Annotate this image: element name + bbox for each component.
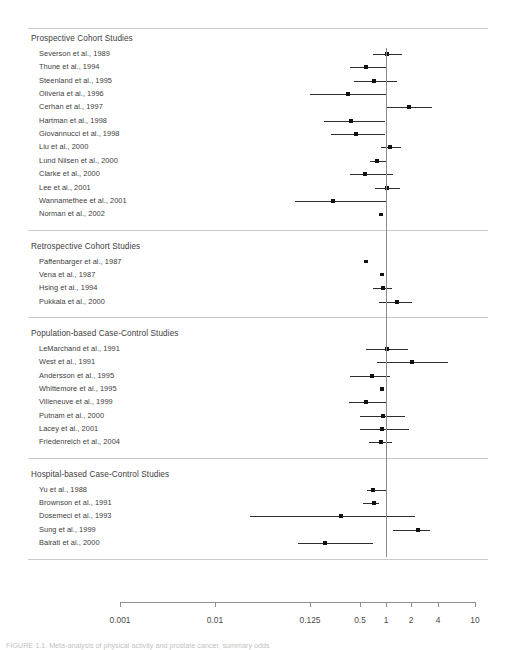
study-label: Lee et al., 2001 (39, 183, 91, 192)
point-estimate (364, 260, 367, 263)
point-estimate (323, 541, 327, 545)
study-label: Bairati et al., 2000 (39, 538, 100, 547)
point-estimate (346, 92, 350, 96)
x-axis-tick-label: 10 (470, 615, 479, 625)
study-label: Whittemore et al., 1995 (39, 384, 117, 393)
x-axis-tick-label: 0.01 (207, 615, 223, 625)
confidence-interval (350, 67, 386, 68)
study-label: Sung et al., 1999 (39, 525, 96, 534)
x-axis-tick (411, 602, 412, 607)
forest-plot: Prospective Cohort StudiesSeverson et al… (0, 0, 510, 650)
confidence-interval (250, 516, 415, 517)
section-divider (28, 28, 488, 29)
x-axis-tick-label: 0.125 (300, 615, 321, 625)
x-axis-tick-label: 4 (436, 615, 441, 625)
point-estimate (380, 427, 384, 431)
x-axis-tick (438, 602, 439, 607)
section-divider (28, 230, 488, 231)
point-estimate (380, 387, 383, 390)
study-label: Vena et al., 1987 (39, 270, 95, 279)
x-axis-line (120, 602, 475, 603)
confidence-interval (360, 429, 409, 430)
x-axis-tick (360, 602, 361, 607)
point-estimate (364, 65, 368, 69)
point-estimate (364, 400, 368, 404)
figure-caption: FIGURE 1.1. Meta-analysis of physical ac… (6, 641, 504, 650)
point-estimate (372, 501, 376, 505)
study-label: Paffenbarger et al., 1987 (39, 257, 121, 266)
point-estimate (372, 79, 376, 83)
confidence-interval (363, 503, 379, 504)
study-label: Cerhan et al., 1997 (39, 102, 103, 111)
point-estimate (363, 172, 367, 176)
study-label: West et al., 1991 (39, 357, 95, 366)
group-header-3: Population-based Case-Control Studies (31, 329, 179, 338)
study-label: Andersson et al., 1995 (39, 371, 114, 380)
study-label: Putnam et al., 2000 (39, 411, 104, 420)
study-label: Pukkala et al., 2000 (39, 297, 105, 306)
study-label: LeMarchand et al., 1991 (39, 344, 120, 353)
study-label: Friedenreich et al., 2004 (39, 437, 120, 446)
section-divider (28, 559, 488, 560)
point-estimate (354, 132, 358, 136)
point-estimate (407, 105, 411, 109)
point-estimate (371, 488, 375, 492)
x-axis-tick-label: 0.001 (110, 615, 131, 625)
study-label: Thune et al., 1994 (39, 62, 99, 71)
study-label: Dosemeci et al., 1993 (39, 511, 112, 520)
study-label: Villeneuve et al., 1999 (39, 397, 113, 406)
confidence-interval (393, 530, 430, 531)
point-estimate (380, 273, 383, 276)
point-estimate (349, 119, 353, 123)
x-axis-tick-label: 1 (384, 615, 389, 625)
point-estimate (416, 528, 420, 532)
study-label: Wannamethee et al., 2001 (39, 196, 127, 205)
study-label: Lund Nilsen et al., 2000 (39, 156, 118, 165)
study-label: Clarke et al., 2000 (39, 169, 100, 178)
group-header-4: Hospital-based Case-Control Studies (31, 470, 169, 479)
study-label: Steenland et al., 1995 (39, 76, 112, 85)
confidence-interval (298, 543, 373, 544)
confidence-interval (367, 490, 387, 491)
point-estimate (339, 514, 343, 518)
point-estimate (379, 440, 383, 444)
study-label: Oliveria et al., 1996 (39, 89, 104, 98)
section-divider (28, 317, 488, 318)
x-axis-tick (215, 602, 216, 607)
point-estimate (395, 300, 399, 304)
study-label: Giovannucci et al., 1998 (39, 129, 120, 138)
study-label: Severson et al., 1989 (39, 49, 110, 58)
study-label: Yu et al., 1988 (39, 485, 87, 494)
point-estimate (388, 145, 392, 149)
x-axis-tick (386, 602, 387, 607)
x-axis-tick (310, 602, 311, 607)
study-label: Lacey et al., 2001 (39, 424, 98, 433)
point-estimate (379, 213, 382, 216)
point-estimate (410, 360, 414, 364)
reference-line (386, 48, 387, 557)
x-axis-tick (475, 602, 476, 607)
confidence-interval (331, 134, 385, 135)
x-axis-tick-label: 2 (409, 615, 414, 625)
study-label: Hsing et al., 1994 (39, 283, 97, 292)
point-estimate (331, 199, 335, 203)
x-axis-tick (120, 602, 121, 607)
group-header-1: Prospective Cohort Studies (31, 34, 133, 43)
confidence-interval (324, 121, 385, 122)
study-label: Liu et al., 2000 (39, 142, 88, 151)
study-label: Norman et al., 2002 (39, 209, 105, 218)
section-divider (28, 458, 488, 459)
group-header-2: Retrospective Cohort Studies (31, 242, 140, 251)
study-label: Brownson et al., 1991 (39, 498, 112, 507)
point-estimate (381, 286, 385, 290)
x-axis-tick-label: 0.5 (354, 615, 366, 625)
point-estimate (375, 159, 379, 163)
confidence-interval (295, 201, 386, 202)
point-estimate (381, 414, 385, 418)
study-label: Hartman et al., 1998 (39, 116, 107, 125)
point-estimate (370, 374, 374, 378)
